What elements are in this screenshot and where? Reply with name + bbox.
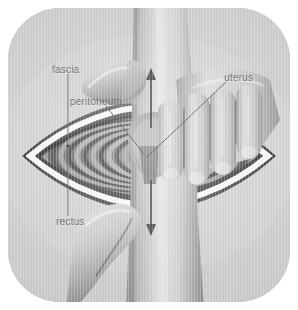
label-uterus: uterus — [224, 72, 253, 83]
annotation-overlay — [8, 8, 290, 302]
illustration-canvas: fascia peritoneum rectus uterus — [0, 0, 298, 310]
leader-anchor-fascia — [66, 144, 69, 147]
label-peritoneum: peritoneum — [70, 96, 122, 107]
arrow-down — [146, 180, 156, 236]
arrow-up — [146, 68, 156, 128]
illustration-panel: fascia peritoneum rectus uterus — [8, 8, 290, 302]
leader-line-uterus — [146, 82, 226, 158]
label-rectus: rectus — [56, 216, 84, 227]
label-fascia: fascia — [52, 64, 79, 75]
leader-line-peritoneum — [106, 106, 144, 154]
